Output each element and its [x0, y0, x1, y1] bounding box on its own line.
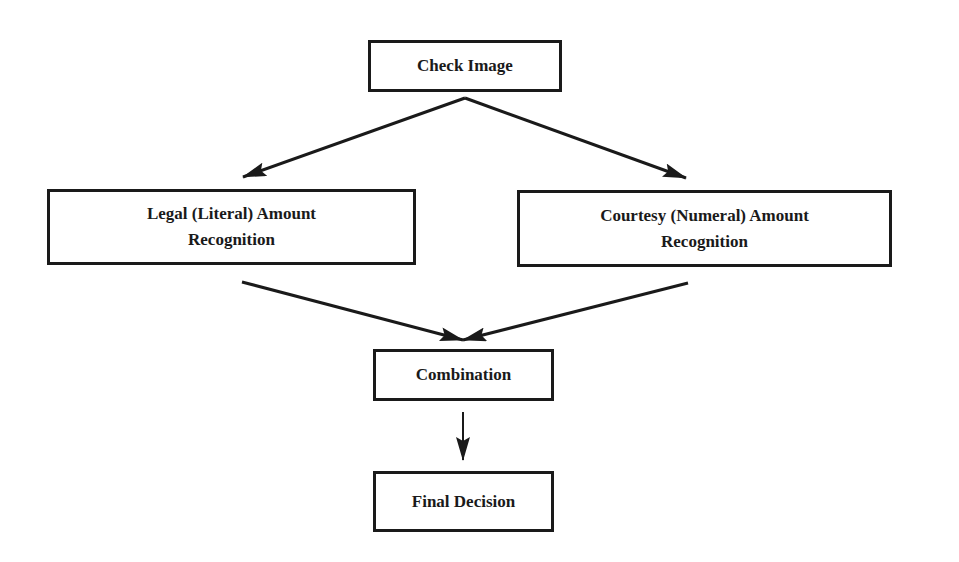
node-final-decision-label: Final Decision — [412, 489, 515, 515]
node-final-decision: Final Decision — [373, 471, 554, 532]
node-combination: Combination — [373, 349, 554, 401]
arrow-courtesy-to-combination — [463, 283, 688, 340]
node-courtesy-label-line1: Courtesy (Numeral) Amount — [600, 203, 809, 229]
node-check-image-label: Check Image — [417, 53, 513, 79]
node-legal-label-line1: Legal (Literal) Amount — [147, 201, 316, 227]
node-legal-amount-recognition: Legal (Literal) Amount Recognition — [47, 189, 416, 265]
arrow-legal-to-combination — [242, 282, 463, 340]
node-courtesy-amount-recognition: Courtesy (Numeral) Amount Recognition — [517, 190, 892, 267]
node-legal-label-line2: Recognition — [188, 227, 275, 253]
arrow-check-to-legal — [243, 98, 465, 177]
flowchart-canvas: Check Image Legal (Literal) Amount Recog… — [0, 0, 959, 562]
node-combination-label: Combination — [416, 362, 511, 388]
node-courtesy-label-line2: Recognition — [661, 229, 748, 255]
arrow-check-to-courtesy — [465, 98, 686, 178]
node-check-image: Check Image — [368, 40, 562, 92]
